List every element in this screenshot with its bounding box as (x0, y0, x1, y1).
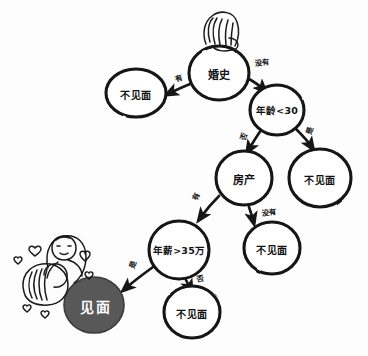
node-shape-nomeet-1[interactable] (106, 69, 166, 117)
edge-salary-to-meet (126, 267, 153, 288)
node-shape-property[interactable] (216, 151, 272, 205)
node-shape-nomeet-4[interactable] (164, 286, 220, 338)
edge-age-to-property (249, 130, 261, 149)
node-shape-age[interactable] (250, 85, 304, 135)
node-shape-marriage[interactable] (189, 46, 249, 100)
edge-property-to-salary (201, 196, 219, 217)
edge-marriage-to-age (249, 79, 263, 89)
node-shape-salary[interactable] (149, 221, 209, 279)
node-shape-meet[interactable] (64, 277, 124, 333)
node-shape-nomeet-3[interactable] (244, 222, 300, 274)
diagram-svg (0, 0, 368, 356)
node-shape-meet-group (64, 277, 124, 333)
node-shape-nomeet-2[interactable] (289, 149, 351, 207)
edge-marriage-to-nomeet (170, 84, 190, 93)
node-outline-group (106, 46, 351, 338)
edge-age-to-nomeet (296, 129, 311, 146)
diagram-canvas: 婚史 不见面 年龄<30 不见面 房产 不见面 年薪>35万 不见面 见面 有 … (0, 0, 368, 356)
edge-property-to-nomeet (249, 207, 253, 220)
